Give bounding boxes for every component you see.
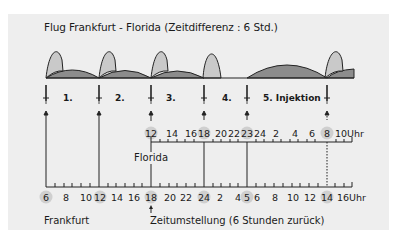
svg-text:14: 14 xyxy=(111,192,123,203)
svg-text:22: 22 xyxy=(228,128,240,139)
injection-label-2: 2. xyxy=(115,93,125,103)
insulin-curves xyxy=(46,52,354,78)
svg-text:16: 16 xyxy=(185,128,197,139)
svg-text:18: 18 xyxy=(198,128,210,139)
florida-time-axis: 12 14 16 18 20 22 23 24 2 4 6 8 10 Uhr F… xyxy=(134,127,364,164)
time-change-label: Zeitumstellung (6 Stunden zurück) xyxy=(150,215,325,226)
florida-label: Florida xyxy=(134,152,168,163)
injection-label-3: 3. xyxy=(166,93,176,103)
axis-connectors xyxy=(151,142,327,187)
svg-text:8: 8 xyxy=(63,192,69,203)
svg-text:6: 6 xyxy=(254,192,260,203)
injection-label-5: 5. Injektion xyxy=(263,93,321,103)
svg-text:12: 12 xyxy=(94,192,106,203)
svg-text:6: 6 xyxy=(43,192,49,203)
svg-text:6: 6 xyxy=(309,128,315,139)
svg-text:24: 24 xyxy=(254,128,266,139)
injection-label-4: 4. xyxy=(222,93,232,103)
syringe-icon-1 xyxy=(43,85,49,104)
svg-text:2: 2 xyxy=(273,128,279,139)
svg-text:20: 20 xyxy=(215,128,227,139)
svg-text:14: 14 xyxy=(321,192,333,203)
svg-text:22: 22 xyxy=(180,192,192,203)
frankfurt-unit: Uhr xyxy=(349,192,366,203)
svg-text:10: 10 xyxy=(335,128,347,139)
svg-text:10: 10 xyxy=(287,192,299,203)
svg-text:4: 4 xyxy=(235,192,241,203)
time-change-annotation: Zeitumstellung (6 Stunden zurück) xyxy=(149,205,325,226)
svg-text:8: 8 xyxy=(324,128,330,139)
svg-text:2: 2 xyxy=(217,192,223,203)
flight-insulin-diagram: 1. 2. 3. 4. 5. Injektion 12 14 16 18 20 … xyxy=(0,0,406,237)
syringe-icon-4 xyxy=(201,85,207,104)
svg-text:24: 24 xyxy=(198,192,210,203)
svg-text:18: 18 xyxy=(145,192,157,203)
svg-text:20: 20 xyxy=(164,192,176,203)
svg-text:12: 12 xyxy=(304,192,316,203)
syringe-icon-2 xyxy=(96,85,102,104)
svg-text:16: 16 xyxy=(128,192,140,203)
florida-unit: Uhr xyxy=(347,128,364,139)
syringe-icon-5 xyxy=(244,85,250,104)
svg-text:4: 4 xyxy=(292,128,298,139)
svg-text:23: 23 xyxy=(241,128,253,139)
frankfurt-label: Frankfurt xyxy=(44,215,89,226)
svg-text:10: 10 xyxy=(80,192,92,203)
injection-label-1: 1. xyxy=(63,93,73,103)
svg-text:5: 5 xyxy=(244,192,250,203)
syringe-icon-3 xyxy=(148,85,154,104)
svg-text:14: 14 xyxy=(166,128,178,139)
svg-text:16: 16 xyxy=(337,192,349,203)
syringe-icon-6 xyxy=(324,85,330,104)
svg-text:8: 8 xyxy=(272,192,278,203)
svg-text:12: 12 xyxy=(145,128,157,139)
